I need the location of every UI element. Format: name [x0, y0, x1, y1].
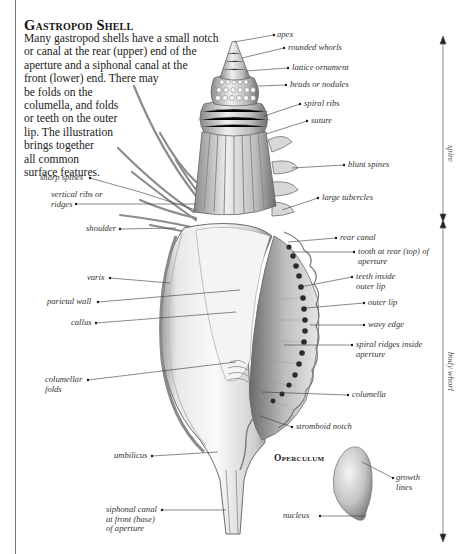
label-spiral-ribs: spiral ribs: [304, 99, 340, 109]
label-umbilicus: umbilicus: [114, 451, 147, 461]
label-large-tubercles: large tubercles: [322, 193, 373, 203]
label-spiral-ridges-inside-aperture: spiral ridges inside aperture: [356, 340, 422, 359]
label-varix: varix: [87, 273, 105, 283]
dimension-label-body-whorl: body whorl: [446, 352, 456, 391]
label-teeth-inside-outer-lip: teeth inside outer lip: [356, 272, 395, 291]
label-growth-lines: growth lines: [396, 473, 420, 492]
operculum-shape: [333, 447, 372, 520]
label-vertical-ribs: vertical ribs or ridges: [51, 190, 103, 209]
label-lattice-ornament: lattice ornament: [292, 63, 349, 73]
label-columellar-folds: columellar folds: [45, 375, 82, 394]
operculum-title: Operculum: [274, 453, 325, 463]
label-blunt-spines: blunt spines: [348, 160, 389, 170]
spire-dimension-arrow: [440, 36, 446, 222]
label-rounded-whorls: rounded whorls: [288, 43, 342, 53]
label-beads-or-nodules: beads or nodules: [290, 80, 349, 90]
label-shoulder: shoulder: [86, 224, 116, 234]
label-callus: callus: [71, 318, 92, 328]
label-parietal-wall: parietal wall: [47, 297, 91, 307]
label-siphonal-canal: siphonal canal at front (base) of apertu…: [106, 505, 157, 534]
label-tooth-at-rear: tooth at rear (top) of aperture: [358, 247, 429, 266]
label-nucleus: nucleus: [283, 511, 309, 521]
label-sharp-spines: sharp spines: [40, 173, 83, 183]
label-rear-canal: rear canal: [340, 233, 376, 243]
dimension-label-spire: spire: [446, 145, 456, 162]
label-stromboid-notch: stromboid notch: [296, 422, 352, 432]
apex-spire: [220, 41, 250, 80]
label-wavy-edge: wavy edge: [368, 320, 404, 330]
label-suture: suture: [311, 116, 332, 126]
label-columella: columella: [352, 390, 386, 400]
label-outer-lip: outer lip: [368, 298, 397, 308]
sharp-spines: [118, 86, 198, 234]
label-apex: apex: [277, 30, 293, 40]
